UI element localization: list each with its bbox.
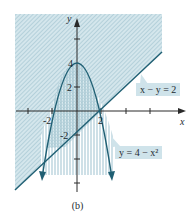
x-axis-arrow-icon (178, 108, 186, 114)
parabola-right-arrow-icon (108, 171, 115, 181)
y-axis-label: y (66, 13, 72, 24)
y-tick-label-2: 2 (67, 82, 72, 93)
line-equation-label: x − y = 2 (136, 83, 180, 96)
region-figure: x y -2 2 4 2 -2 (0, 0, 192, 220)
curve-equation-label: y = 4 − x² (115, 146, 162, 159)
x-tick-label-neg2: -2 (43, 115, 51, 126)
x-axis-label: x (179, 116, 185, 127)
y-tick-label-neg2: -2 (60, 130, 68, 141)
x-tick-label-2: 2 (98, 115, 103, 126)
figure-caption: (b) (0, 200, 155, 211)
parabola-left-arrow-icon (39, 171, 46, 181)
y-tick-label-4: 4 (68, 58, 73, 69)
